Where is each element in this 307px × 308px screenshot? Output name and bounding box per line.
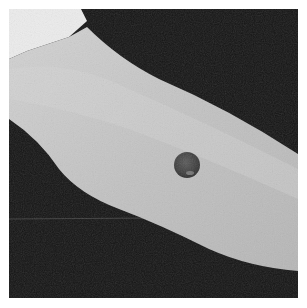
photograph	[9, 9, 298, 298]
photo-canvas	[9, 9, 298, 298]
grain-overlay	[9, 9, 298, 298]
